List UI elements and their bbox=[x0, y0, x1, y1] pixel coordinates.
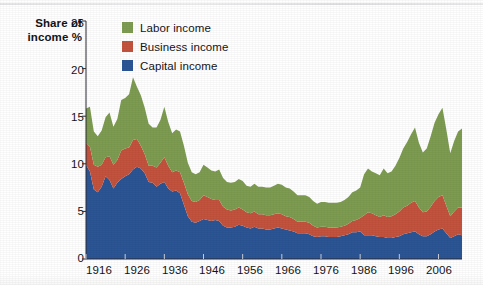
stacked-area-chart bbox=[0, 0, 483, 285]
